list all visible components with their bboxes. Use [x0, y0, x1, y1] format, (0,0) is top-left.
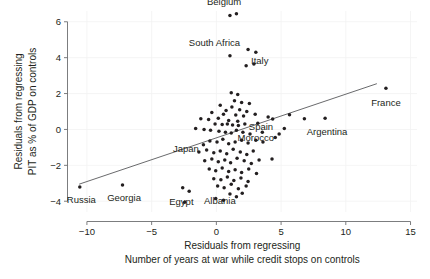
data-point — [210, 111, 214, 115]
data-point — [270, 157, 274, 161]
data-point — [283, 127, 287, 131]
data-point — [121, 183, 125, 187]
data-point — [254, 51, 258, 55]
data-point — [228, 54, 232, 58]
data-point — [246, 48, 250, 52]
point-annotation-label: Egypt — [169, 196, 194, 207]
data-point — [384, 86, 388, 90]
data-point — [227, 119, 231, 123]
data-point — [233, 99, 237, 103]
data-point — [241, 191, 245, 195]
data-point — [229, 182, 233, 186]
data-point — [210, 157, 214, 161]
data-point — [221, 138, 225, 142]
data-point — [215, 140, 219, 144]
data-point — [235, 156, 239, 160]
data-point — [235, 12, 239, 16]
data-point — [244, 184, 248, 188]
data-point — [217, 160, 221, 164]
data-point — [255, 172, 259, 176]
data-point — [247, 167, 251, 171]
data-point — [220, 166, 224, 170]
data-point — [194, 127, 198, 131]
y-axis-title-line1: Residuals from regressing — [13, 53, 24, 169]
data-point — [323, 117, 327, 121]
data-point — [237, 124, 241, 128]
data-point — [248, 102, 252, 106]
data-point — [187, 190, 191, 194]
point-annotation-label: Italy — [251, 55, 269, 66]
point-annotation-label: Albania — [204, 195, 236, 206]
data-point — [303, 117, 307, 121]
data-point — [250, 162, 254, 166]
data-point — [223, 158, 227, 162]
y-axis-tick-label: −4 — [50, 196, 61, 207]
data-point — [199, 117, 203, 121]
axis-titles-group: Residuals from regressingNumber of years… — [13, 48, 360, 265]
y-axis-tick-label: −2 — [50, 160, 61, 171]
data-point — [181, 186, 185, 190]
data-point — [220, 123, 224, 127]
data-point — [277, 132, 281, 136]
data-point — [216, 184, 220, 188]
data-point — [217, 117, 221, 121]
data-point — [205, 148, 209, 152]
x-axis-tick-label: 0 — [214, 226, 219, 237]
data-point — [239, 150, 243, 154]
data-point — [230, 105, 234, 109]
data-point — [253, 112, 257, 116]
data-point — [212, 151, 216, 155]
point-annotation-label: South Africa — [189, 37, 241, 48]
data-point — [225, 152, 229, 156]
x-axis-tick-label: 5 — [278, 226, 283, 237]
point-annotation-label: Spain — [249, 121, 273, 132]
scatter-chart-figure: −4−20246−10−5051015 BelgiumSouth AfricaI… — [0, 0, 430, 279]
data-point — [202, 128, 206, 132]
data-point — [78, 185, 82, 189]
data-point — [252, 149, 256, 153]
plot-svg: −4−20246−10−5051015 BelgiumSouth AfricaI… — [0, 0, 430, 279]
data-point — [212, 177, 216, 181]
data-point — [232, 179, 236, 183]
data-point — [257, 158, 261, 162]
data-point — [226, 122, 230, 126]
point-annotations-group: BelgiumSouth AfricaItalySpainMoroccoFran… — [67, 0, 401, 207]
x-axis-tick-label: −5 — [146, 226, 157, 237]
data-point — [213, 122, 217, 126]
data-point — [231, 123, 235, 127]
data-point — [238, 108, 242, 112]
point-annotation-label: Morocco — [238, 132, 274, 143]
data-point — [236, 93, 240, 97]
data-point — [227, 142, 231, 146]
point-annotation-label: Japan — [173, 143, 199, 154]
point-annotation-label: Belgium — [207, 0, 241, 7]
data-point — [242, 159, 246, 163]
data-point — [208, 139, 212, 143]
data-point — [236, 120, 240, 124]
data-point — [224, 109, 228, 113]
point-annotation-label: France — [371, 97, 401, 108]
data-point — [226, 175, 230, 179]
data-point — [245, 110, 249, 114]
data-point — [239, 176, 243, 180]
data-point — [207, 167, 211, 171]
data-point — [233, 140, 237, 144]
data-point — [240, 171, 244, 175]
data-point — [222, 112, 226, 116]
data-point — [219, 178, 223, 182]
data-point — [246, 180, 250, 184]
data-point — [244, 64, 248, 68]
data-point — [202, 143, 206, 147]
y-axis-tick-label: 4 — [56, 52, 61, 63]
data-point — [203, 159, 207, 163]
x-axis-tick-label: −10 — [79, 226, 95, 237]
data-point — [243, 122, 247, 126]
x-axis-title-line2: Number of years at war while credit stop… — [125, 254, 360, 265]
data-point — [229, 131, 233, 135]
data-point — [218, 149, 222, 153]
data-point — [217, 129, 221, 133]
y-axis-tick-label: 2 — [56, 88, 61, 99]
x-axis-tick-label: 10 — [341, 226, 352, 237]
data-point — [233, 168, 237, 172]
x-axis-title-line1: Residuals from regressing — [184, 240, 300, 251]
